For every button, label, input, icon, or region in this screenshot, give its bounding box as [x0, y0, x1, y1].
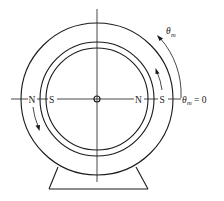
- theta-m-label: θ m: [166, 26, 176, 38]
- rotor-rotation-arrow-right-icon: [156, 68, 163, 90]
- theta-m-direction-arrow-icon: [157, 35, 181, 98]
- rotor-rotation-arrow-left-icon: [33, 107, 40, 131]
- theta-zero-label: θ m = 0: [182, 95, 207, 107]
- svg-text:m: m: [187, 99, 192, 106]
- rotor-left-pole-label: S: [49, 95, 54, 105]
- rotor-right-pole-label: N: [135, 95, 142, 105]
- machine-diagram: N S N S θ m = 0 θ m: [0, 0, 224, 201]
- svg-text:m: m: [171, 31, 176, 38]
- machine-base: [49, 167, 148, 189]
- svg-text:= 0: = 0: [194, 95, 207, 105]
- stator-left-pole-label: N: [29, 95, 36, 105]
- stator-right-pole-label: S: [160, 95, 165, 105]
